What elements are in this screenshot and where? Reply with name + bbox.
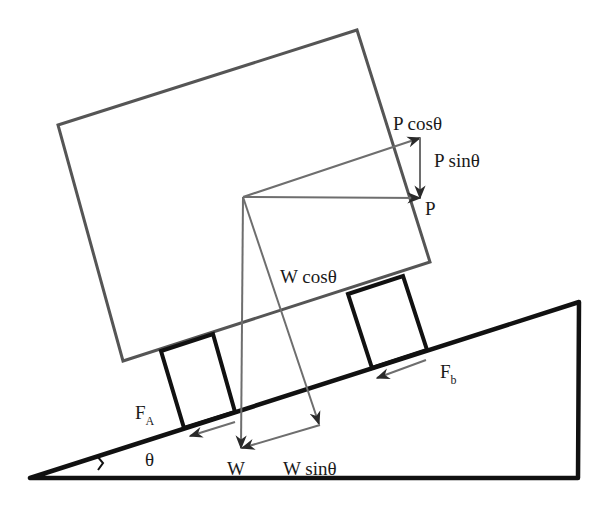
inclined-plane	[30, 302, 579, 478]
angle-marker-icon	[97, 456, 103, 470]
label-w-sin: W sinθ	[283, 458, 337, 479]
label-w: W	[227, 458, 245, 479]
label-friction-b-sub: b	[451, 373, 457, 387]
vehicle-body	[58, 30, 430, 361]
label-friction-b-main: F	[440, 361, 451, 382]
label-friction-a-sub: A	[146, 414, 155, 428]
label-p: P	[425, 198, 436, 219]
label-w-cos: W cosθ	[280, 266, 337, 287]
vector-p	[243, 197, 420, 198]
label-friction-a-main: F	[135, 402, 146, 423]
label-p-cos: P cosθ	[393, 113, 442, 134]
vector-w-sin	[242, 425, 320, 448]
free-body-diagram: P cosθ P sinθ P W cosθ W W sinθ θ FA Fb	[0, 0, 612, 506]
wheel-b	[348, 276, 427, 368]
wheel-a	[161, 334, 235, 428]
vector-p-cos	[243, 138, 420, 197]
label-theta: θ	[145, 449, 154, 470]
diagram-canvas: P cosθ P sinθ P W cosθ W W sinθ θ FA Fb	[0, 0, 612, 506]
label-friction-b: Fb	[440, 361, 457, 387]
label-p-sin: P sinθ	[434, 150, 480, 171]
label-friction-a: FA	[135, 402, 155, 428]
vector-w-cos	[243, 197, 319, 424]
